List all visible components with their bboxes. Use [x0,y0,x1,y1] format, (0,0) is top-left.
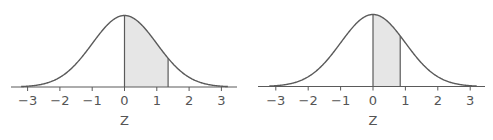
x-tick-label: 3 [466,93,474,108]
x-tick-label: −2 [299,93,318,108]
x-tick-label: −3 [266,93,285,108]
x-tick-label: −1 [83,93,102,108]
x-tick-label: 1 [153,93,161,108]
shaded-area [373,15,400,87]
x-tick-label: 0 [369,93,377,108]
normal-distribution-charts: −3−2−10123Z −3−2−10123Z [0,0,493,140]
x-axis-title: Z [369,113,378,128]
x-tick-label: 2 [434,93,442,108]
x-tick-label: −2 [50,93,69,108]
x-tick-label: 3 [217,93,225,108]
x-tick-label: 1 [401,93,409,108]
x-tick-label: −1 [331,93,350,108]
x-tick-label: 0 [120,93,128,108]
x-tick-label: −3 [18,93,37,108]
x-tick-label: 2 [185,93,193,108]
shaded-area [125,16,169,88]
x-axis-title: Z [120,113,129,128]
right-normal-chart: −3−2−10123Z [258,15,485,128]
left-normal-chart: −3−2−10123Z [11,16,237,129]
